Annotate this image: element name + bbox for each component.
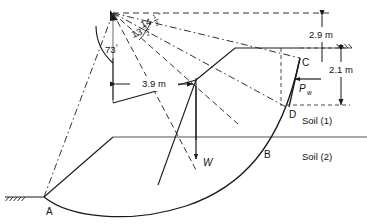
upper-slope-profile <box>196 48 300 80</box>
slope-stability-figure: 3.9 m 2.9 m 2.1 m W P w A B C D 73° 14 1 <box>0 0 367 224</box>
angle-label-14half-degree: ° <box>157 11 162 19</box>
angle-label-13half-denominator: 2 <box>145 30 151 37</box>
figure-canvas: 3.9 m 2.9 m 2.1 m W P w A B C D 73° 14 1 <box>0 0 367 224</box>
angle-label-13half-degree: ° <box>148 21 153 29</box>
point-label-B: B <box>264 149 271 160</box>
radius-line-to-A <box>44 13 113 197</box>
angle-label-14half-numerator: 1 <box>152 13 158 20</box>
force-Pw-subscript: w <box>307 89 313 96</box>
lower-slope-face <box>44 137 113 197</box>
angle-label-14half-denominator: 2 <box>154 20 160 27</box>
ground-hatch-left-icon <box>6 197 26 201</box>
soil-label-1: Soil (1) <box>302 115 332 126</box>
angle-label-73: 73° <box>105 44 119 55</box>
dimension-2-9m-label: 2.9 m <box>309 29 333 40</box>
force-W-label: W <box>203 157 214 168</box>
soil-label-2: Soil (2) <box>302 151 332 162</box>
force-Pw-label: P <box>299 83 306 94</box>
dimension-2-1m-label: 2.1 m <box>329 64 353 75</box>
dimension-3-9m-label: 3.9 m <box>142 78 166 89</box>
angle-label-14half-group: 14 1 2 ° <box>139 11 165 32</box>
wedge-radial-solid-line <box>113 80 196 185</box>
point-label-D: D <box>289 109 296 120</box>
point-label-A: A <box>46 206 53 217</box>
point-label-C: C <box>302 57 309 68</box>
